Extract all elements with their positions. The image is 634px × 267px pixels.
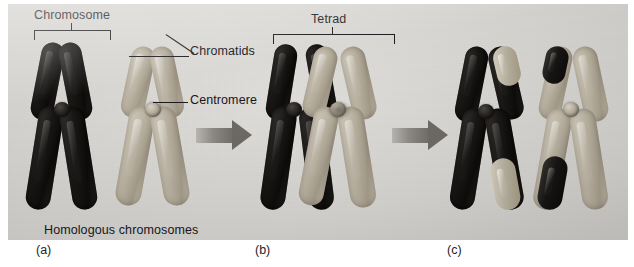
panel-label-b: (b) (255, 243, 270, 257)
label-homologous-chromosomes: Homologous chromosomes (44, 223, 198, 237)
centromere-c-1 (478, 104, 494, 119)
centromere-c-2 (563, 102, 579, 117)
centromere-b-dark (286, 102, 302, 117)
chiasma-crossover-point (326, 100, 352, 120)
chromosome-a-light (120, 46, 204, 208)
arrow-a-to-b (196, 120, 254, 150)
tetrad-bracket-tick (332, 27, 333, 35)
crossing-over-figure: Chromosome Chromatids Centromere Tetrad … (0, 0, 634, 267)
chromosome-bracket-tick (71, 23, 72, 31)
chromosome-bracket (34, 30, 111, 40)
chromosome-c-recombinant-2 (538, 46, 624, 212)
centromere-a-light (145, 102, 161, 117)
label-chromatids: Chromatids (190, 44, 255, 58)
centromere-a-dark (54, 102, 70, 117)
arrow-head (232, 120, 252, 150)
label-chromosome: Chromosome (34, 8, 110, 22)
label-centromere: Centromere (190, 93, 257, 107)
tetrad-bracket (273, 34, 395, 44)
arrow-shaft (196, 128, 234, 143)
chromosome-a-dark (30, 42, 114, 210)
arrow-head (428, 120, 448, 150)
photograph-plate: Chromosome Chromatids Centromere Tetrad … (8, 4, 628, 240)
panel-label-c: (c) (447, 243, 462, 257)
chromatids-leader-upper (129, 56, 189, 57)
panel-label-a: (a) (36, 243, 51, 257)
arrow-shaft (392, 128, 430, 143)
centromere-leader (153, 102, 188, 103)
chromosome-b-light (304, 46, 392, 210)
arrow-b-to-c (392, 120, 450, 150)
label-tetrad: Tetrad (311, 12, 346, 26)
chromosome-c-recombinant-1 (454, 46, 540, 212)
